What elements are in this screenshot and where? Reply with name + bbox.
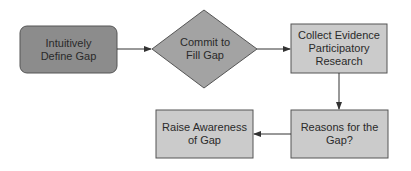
label-collect: Collect Evidence Participatory Research <box>291 24 387 73</box>
label-define-gap: Intuitively Define Gap <box>20 26 117 73</box>
label-reasons: Reasons for the Gap? <box>291 110 388 158</box>
label-raise: Raise Awareness of Gap <box>156 110 253 158</box>
label-commit: Commit to Fill Gap <box>165 30 245 68</box>
